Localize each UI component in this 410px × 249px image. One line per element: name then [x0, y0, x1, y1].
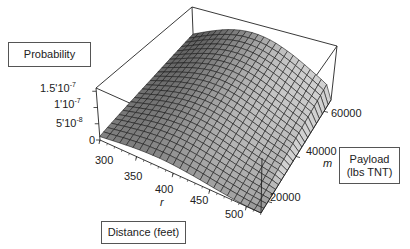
z-tick-label: 0	[89, 134, 95, 146]
m-tick-label: 20000	[270, 191, 301, 203]
probability-surface	[100, 30, 331, 213]
z-tick-label: 1'10-7	[54, 98, 81, 110]
r-tick-label: 450	[190, 194, 208, 206]
y-axis-title: Payload (lbs TNT)	[339, 147, 400, 184]
box-edge	[296, 157, 300, 158]
box-edge	[96, 88, 100, 140]
m-axis-symbol: m	[323, 157, 332, 169]
box-edge	[324, 111, 328, 112]
r-axis-symbol: r	[160, 196, 164, 208]
r-tick-label: 400	[155, 183, 173, 195]
r-tick-label: 300	[95, 154, 113, 166]
m-tick-label: 40000	[306, 145, 337, 157]
z-axis-title: Probability	[8, 42, 91, 67]
x-axis-title: Distance (feet)	[101, 221, 186, 244]
r-tick-label: 500	[225, 208, 243, 220]
r-tick-label: 350	[124, 170, 142, 182]
z-tick-label: 1.5'10-7	[40, 82, 76, 94]
z-tick-label: 5'10-8	[56, 117, 83, 129]
box-edge	[331, 46, 337, 100]
m-tick-label: 60000	[331, 107, 362, 119]
